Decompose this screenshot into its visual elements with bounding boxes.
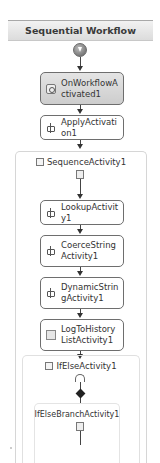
activity-dynamicstring[interactable]: DynamicStringActivity1 <box>40 277 124 309</box>
ifelse-activity-label: IfElseActivity1 <box>56 361 116 371</box>
collapse-icon[interactable] <box>36 158 44 166</box>
connector-arrow-icon <box>77 313 83 318</box>
connector-arrow-icon <box>77 109 83 114</box>
workflow-activity-icon <box>46 246 56 256</box>
connector-arrow-icon <box>77 144 83 149</box>
workflow-activity-icon <box>46 123 56 133</box>
workflow-activity-icon <box>46 288 56 298</box>
activity-label: LogToHistoryListActivity1 <box>61 324 123 346</box>
activity-coercestring[interactable]: CoerceStringActivity1 <box>40 235 124 267</box>
workflow-title: Sequential Workflow <box>25 25 136 36</box>
sequence-start-icon <box>76 170 84 179</box>
sequence-activity-header[interactable]: SequenceActivity1 <box>15 157 147 167</box>
connector-line <box>80 431 81 445</box>
connector-arrow-icon <box>77 194 83 199</box>
branch-start-icon <box>76 422 84 431</box>
activity-logtohistorylist[interactable]: LogToHistoryListActivity1 <box>40 319 124 351</box>
connector-arrow-icon <box>77 229 83 234</box>
activity-label: ApplyActivation1 <box>61 117 123 139</box>
event-icon <box>46 84 56 94</box>
connector-line <box>80 179 81 195</box>
ifelse-activity-header[interactable]: IfElseActivity1 <box>22 361 140 371</box>
connector-arrow-icon <box>77 66 83 71</box>
connector-arrow-icon <box>77 271 83 276</box>
scroll-indicator <box>10 447 12 449</box>
activity-applyactivation[interactable]: ApplyActivation1 <box>40 115 124 140</box>
collapse-icon[interactable] <box>45 362 53 370</box>
ifelse-branch-label: IfElseBranchActivity1 <box>34 410 120 419</box>
activity-label: DynamicStringActivity1 <box>61 282 123 304</box>
workflow-start-icon[interactable] <box>73 43 87 57</box>
activity-label: CoerceStringActivity1 <box>61 240 123 262</box>
workflow-activity-icon <box>46 208 56 218</box>
log-icon <box>46 330 56 340</box>
activity-onworkflowactivated[interactable]: OnWorkflowActivated1 <box>40 72 124 105</box>
activity-label: OnWorkflowActivated1 <box>61 78 123 100</box>
sequence-activity-label: SequenceActivity1 <box>47 157 126 167</box>
activity-label: LookupActivity1 <box>61 202 123 224</box>
ifelse-branch-icon <box>75 374 85 382</box>
workflow-title-bar: Sequential Workflow <box>8 20 153 41</box>
activity-lookup[interactable]: LookupActivity1 <box>40 200 124 225</box>
